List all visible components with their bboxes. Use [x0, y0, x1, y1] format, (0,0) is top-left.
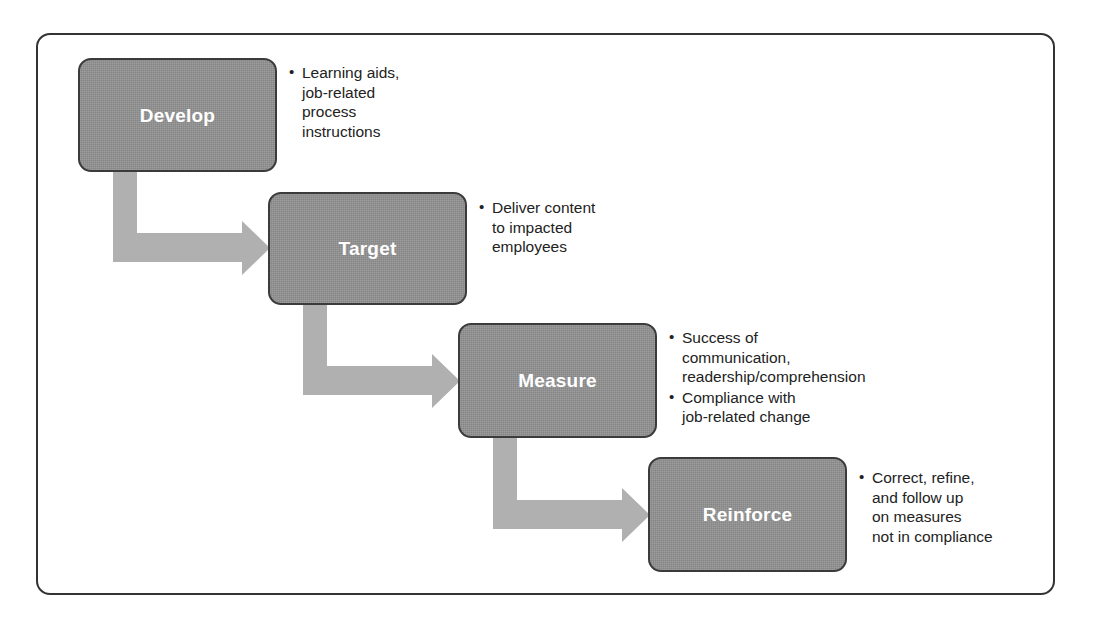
note-item: • Compliance with job-related change	[669, 388, 969, 427]
bullet-icon: •	[669, 328, 682, 347]
step-box-reinforce[interactable]: Reinforce	[648, 457, 847, 572]
step-label-measure: Measure	[518, 371, 597, 390]
note-text: Compliance with job-related change	[682, 388, 969, 427]
note-text: Learning aids, job-related process instr…	[302, 63, 489, 141]
notes-develop: • Learning aids, job-related process ins…	[289, 63, 489, 142]
note-text: Deliver content to impacted employees	[492, 198, 689, 257]
notes-reinforce: • Correct, refine, and follow up on meas…	[859, 468, 1064, 547]
bullet-icon: •	[479, 198, 492, 217]
step-box-measure[interactable]: Measure	[458, 323, 657, 438]
bullet-icon: •	[669, 388, 682, 407]
notes-measure: • Success of communication, readership/c…	[669, 328, 969, 428]
step-label-develop: Develop	[140, 106, 215, 125]
process-flow-diagram: Develop Target Measure Reinforce • Learn…	[0, 0, 1093, 628]
bullet-icon: •	[289, 63, 302, 82]
note-text: Success of communication, readership/com…	[682, 328, 969, 387]
note-item: • Learning aids, job-related process ins…	[289, 63, 489, 141]
note-item: • Deliver content to impacted employees	[479, 198, 689, 257]
bullet-icon: •	[859, 468, 872, 487]
step-label-target: Target	[339, 239, 397, 258]
step-label-reinforce: Reinforce	[703, 505, 792, 524]
note-item: • Correct, refine, and follow up on meas…	[859, 468, 1064, 546]
note-item: • Success of communication, readership/c…	[669, 328, 969, 387]
step-box-target[interactable]: Target	[268, 192, 467, 305]
note-text: Correct, refine, and follow up on measur…	[872, 468, 1064, 546]
notes-target: • Deliver content to impacted employees	[479, 198, 689, 258]
step-box-develop[interactable]: Develop	[78, 58, 277, 172]
